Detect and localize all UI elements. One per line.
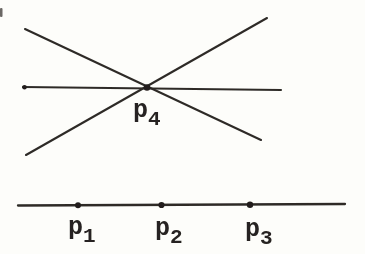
scan-edge-artifact [0, 8, 3, 17]
point-p3-dot [247, 202, 253, 208]
scanned-geometry-figure: p4p1p2p3 [0, 0, 365, 254]
point-p1-label: p1 [68, 213, 95, 248]
point-p1-dot [75, 202, 81, 208]
line-through-p1-p2-p3 [18, 204, 345, 206]
point-p4-dot [144, 84, 151, 91]
figure-canvas: p4p1p2p3 [0, 0, 365, 254]
point-p3-label: p3 [245, 215, 272, 250]
horizontal-line-left-endpoint-dot [22, 85, 27, 90]
point-p2-label: p2 [155, 214, 182, 249]
line-through-p4-horizontal [23, 87, 281, 90]
point-p4-label: p4 [133, 96, 160, 131]
ink-layer: p4p1p2p3 [0, 8, 345, 250]
point-p2-dot [158, 202, 164, 208]
